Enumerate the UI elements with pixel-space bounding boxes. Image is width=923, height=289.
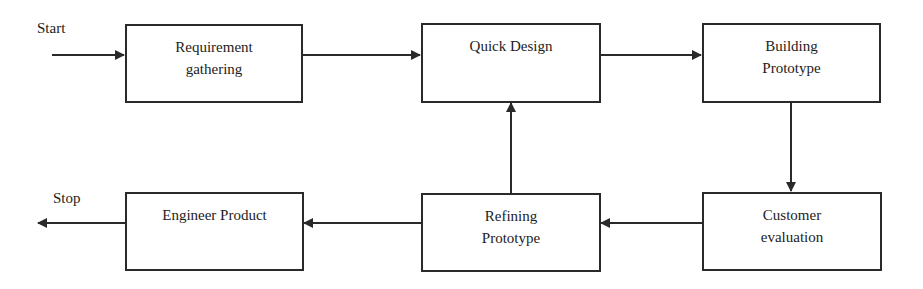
node-label-line2: Prototype [423,227,599,249]
stop-label: Stop [53,190,81,207]
node-label-line1: Building [704,35,879,57]
node-label-line1: Engineer Product [127,204,302,226]
node-building-prototype: Building Prototype [702,23,881,103]
node-customer-evaluation: Customer evaluation [702,192,882,271]
node-engineer-product: Engineer Product [125,192,304,271]
node-label-line1: Requirement [127,36,301,58]
node-refining-prototype: Refining Prototype [421,193,601,272]
node-label-line1: Refining [423,205,599,227]
node-quick-design: Quick Design [421,23,601,103]
start-label: Start [37,20,65,37]
node-label-line2: gathering [127,58,301,80]
node-requirement-gathering: Requirement gathering [125,24,303,103]
node-label-line1: Quick Design [423,35,599,57]
node-label-line1: Customer [704,204,880,226]
node-label-line2: evaluation [704,226,880,248]
node-label-line2: Prototype [704,57,879,79]
